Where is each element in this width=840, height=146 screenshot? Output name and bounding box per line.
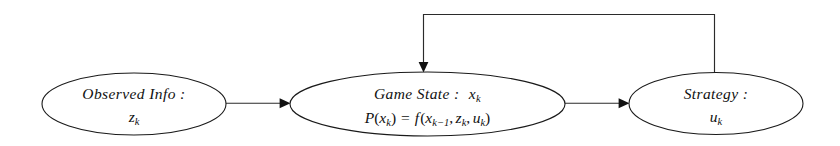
game-state-arg1: x	[424, 109, 432, 126]
observed-info-var: z	[128, 108, 135, 125]
game-state-comma2: ,	[466, 109, 470, 126]
observed-to-state-arrowhead	[280, 98, 291, 108]
strategy-line1: Strategy :	[684, 85, 749, 102]
node-observed-info[interactable]: Observed Info : zk	[42, 73, 226, 135]
feedback-arrowhead	[419, 62, 429, 73]
node-strategy[interactable]: Strategy : uk	[629, 73, 803, 135]
observed-info-var-subscript: k	[135, 116, 140, 127]
strategy-ellipse[interactable]	[629, 73, 803, 135]
game-state-label: Game State :	[374, 85, 460, 102]
game-state-lhs-var: x	[378, 109, 386, 126]
state-to-strategy-arrowhead	[619, 98, 630, 108]
node-game-state[interactable]: Game State :xk P(xk)=f(xk−1,zk,uk)	[290, 72, 565, 136]
game-state-close1: )	[391, 109, 396, 127]
diagram-canvas: Observed Info : zk Game State :xk P(xk)=…	[0, 0, 840, 146]
observed-info-line1: Observed Info :	[82, 85, 185, 102]
edge-observed-to-state	[227, 98, 291, 108]
edge-strategy-feedback-to-state	[419, 15, 715, 73]
game-state-ellipse[interactable]	[290, 72, 565, 136]
game-state-var: x	[468, 85, 476, 102]
game-state-arg2: z	[455, 109, 462, 126]
game-state-arg1-sub: k−1	[432, 117, 449, 128]
game-state-equals: =	[401, 109, 410, 126]
game-state-close2: )	[485, 109, 490, 127]
game-state-p: P	[364, 109, 375, 126]
feedback-path	[424, 15, 715, 73]
game-state-comma1: ,	[449, 109, 453, 126]
strategy-var-subscript: k	[718, 116, 723, 127]
game-state-var-subscript: k	[476, 93, 481, 104]
edge-state-to-strategy	[565, 98, 630, 108]
flowchart-svg: Observed Info : zk Game State :xk P(xk)=…	[0, 0, 840, 146]
